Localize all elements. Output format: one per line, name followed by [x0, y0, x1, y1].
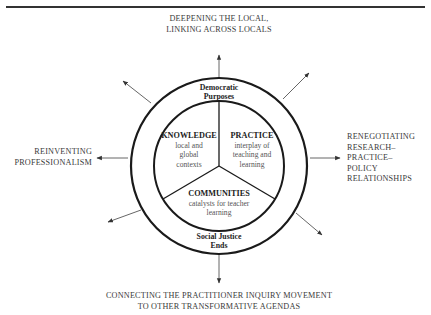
outcome-right-line3: PRACTICE– [347, 153, 431, 164]
ring-top-line2: Purposes [169, 92, 269, 101]
ring-label-top: Democratic Purposes [169, 83, 269, 101]
outcome-right-line1: RENEGOTIATING [347, 132, 431, 143]
arrow-upper-left [123, 81, 151, 103]
outcome-bottom: CONNECTING THE PRACTITIONER INQUIRY MOVE… [60, 291, 378, 312]
outcome-left-line1: REINVENTING [0, 147, 92, 158]
ring-bottom-line1: Social Justice [169, 232, 269, 241]
outcome-right: RENEGOTIATING RESEARCH– PRACTICE– POLICY… [347, 132, 431, 185]
outcome-bottom-line2: TO OTHER TRANSFORMATIVE AGENDAS [60, 302, 378, 313]
segment-knowledge: KNOWLEDGE local and global contexts [160, 131, 218, 169]
ring-bottom-line2: Ends [169, 241, 269, 250]
segment-knowledge-desc3: contexts [160, 160, 218, 170]
segment-knowledge-desc2: global [160, 150, 218, 160]
outcome-bottom-line1: CONNECTING THE PRACTITIONER INQUIRY MOVE… [60, 291, 378, 302]
segment-communities-title: COMMUNITIES [170, 189, 268, 199]
segment-practice-desc2: teaching and [221, 150, 283, 160]
ring-label-bottom: Social Justice Ends [169, 232, 269, 250]
ring-top-line1: Democratic [169, 83, 269, 92]
segment-communities: COMMUNITIES catalysts for teacher learni… [170, 189, 268, 218]
outcome-left-line2: PROFESSIONALISM [0, 158, 92, 169]
outcome-right-line2: RESEARCH– [347, 143, 431, 154]
segment-practice: PRACTICE interplay of teaching and learn… [221, 131, 283, 169]
outcome-left: REINVENTING PROFESSIONALISM [0, 147, 92, 168]
outcome-right-line4: POLICY [347, 164, 431, 175]
outcome-right-line5: RELATIONSHIPS [347, 174, 431, 185]
outcome-top-line1: DEEPENING THE LOCAL, [110, 14, 328, 25]
segment-practice-title: PRACTICE [221, 131, 283, 141]
segment-practice-desc1: interplay of [221, 141, 283, 151]
segment-knowledge-title: KNOWLEDGE [160, 131, 218, 141]
arrow-lower-right [296, 213, 322, 235]
segment-knowledge-desc1: local and [160, 141, 218, 151]
outcome-top: DEEPENING THE LOCAL, LINKING ACROSS LOCA… [110, 14, 328, 35]
arrow-upper-right [283, 73, 309, 99]
segment-practice-desc3: learning [221, 160, 283, 170]
segment-communities-desc1: catalysts for teacher [170, 199, 268, 209]
outcome-top-line2: LINKING ACROSS LOCALS [110, 25, 328, 36]
segment-communities-desc2: learning [170, 208, 268, 218]
arrow-lower-left [108, 210, 141, 222]
